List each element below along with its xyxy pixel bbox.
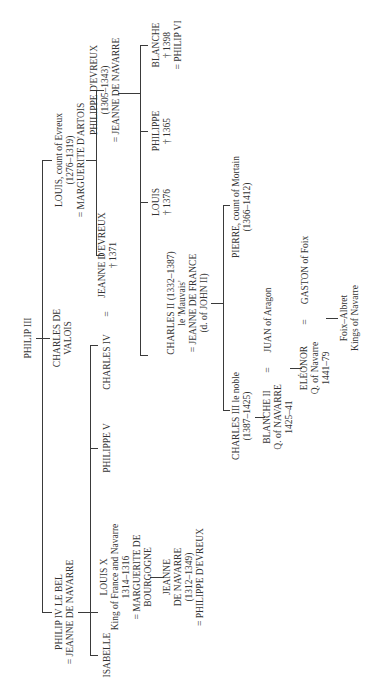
line: [42, 160, 43, 613]
line: [90, 612, 98, 613]
line: [326, 318, 338, 319]
line: [140, 45, 148, 46]
line: [86, 160, 96, 161]
line: [42, 160, 52, 161]
line: [140, 45, 141, 355]
line: [90, 448, 98, 449]
line: [90, 345, 91, 655]
line: [140, 202, 148, 203]
line: [42, 612, 52, 613]
line: [223, 410, 230, 411]
line: [140, 355, 148, 356]
line: [90, 345, 98, 346]
line: [140, 131, 148, 132]
line: [78, 612, 90, 613]
line: [223, 205, 224, 410]
line: [223, 205, 230, 206]
line: [211, 303, 223, 304]
line: [90, 655, 98, 656]
